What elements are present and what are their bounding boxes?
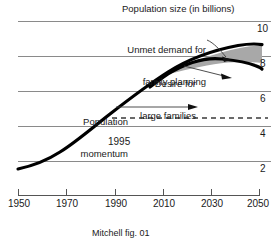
x-tick-label-1970: 1970 [47,198,87,209]
y-tick-label-4: 4 [260,128,266,139]
population-momentum-annotation-line1: Population [48,117,128,128]
population-projection-figure: Population size (in billions) 10 8 6 4 2… [0,0,278,249]
x-axis [18,189,260,196]
year-marker-1995: 1995 [108,136,130,147]
x-tick-label-2030: 2030 [192,198,232,209]
population-momentum-annotation-line2: momentum [48,149,128,160]
y-tick-label-2: 2 [260,163,266,174]
unmet-demand-annotation-line1: Unmet demand for [96,45,206,56]
figure-caption: Mitchell fig. 01 [92,228,150,238]
x-tick-label-2050: 2050 [238,198,278,209]
desire-large-families-annotation-line1: Desire for [86,79,196,90]
x-tick-label-1950: 1950 [0,198,39,209]
y-tick-label-6: 6 [260,93,266,104]
y-tick-label-8: 8 [260,58,266,69]
chart-title: Population size (in billions) [122,4,234,15]
x-tick-label-2010: 2010 [144,198,184,209]
y-tick-label-10: 10 [257,23,268,34]
x-tick-label-1990: 1990 [96,198,136,209]
